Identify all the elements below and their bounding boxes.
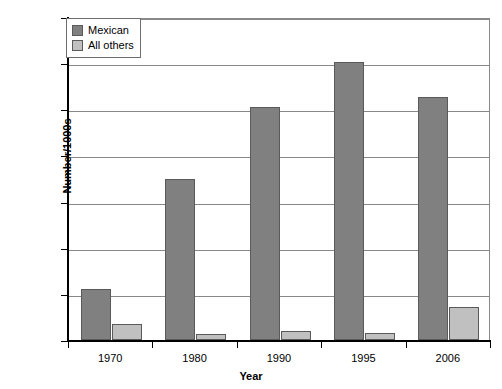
y-axis-tick [61,156,68,157]
bar-mexican-1995 [334,62,364,340]
bar-mexican-1970 [81,289,111,340]
x-axis-tick-label: 1990 [237,352,321,364]
bar-mexican-1990 [250,107,280,340]
legend-label-all-others: All others [88,40,134,51]
y-axis-tick [61,249,68,250]
x-axis-tick-label: 1970 [68,352,152,364]
legend-swatch-icon-mexican [72,25,83,36]
y-axis-tick [61,341,68,342]
y-axis-tick [61,64,68,65]
x-axis-tick [406,341,407,348]
x-axis-tick [490,341,491,348]
chart-legend: Mexican All others [66,18,141,58]
y-axis-tick [61,295,68,296]
x-axis-line [67,340,491,342]
legend-item-mexican: Mexican [72,23,134,38]
bar-mexican-1980 [165,179,195,341]
x-axis-tick-label: 1995 [321,352,405,364]
bar-mexican-2006 [418,97,448,340]
bar-all-others-1995 [365,333,395,340]
x-axis-title: Year [0,370,502,382]
legend-label-mexican: Mexican [88,25,129,36]
x-axis-tick [152,341,153,348]
x-axis-tick [321,341,322,348]
y-axis-tick [61,110,68,111]
x-axis-tick-label: 1980 [152,352,236,364]
x-axis-tick [68,341,69,348]
x-axis-tick-label: 2006 [406,352,490,364]
legend-item-all-others: All others [72,38,134,53]
bar-chart: Number/1000s Year Mexican All others 020… [0,0,502,389]
bar-all-others-2006 [449,307,479,340]
plot-area [68,18,490,341]
legend-swatch-icon-all-others [72,40,83,51]
x-axis-tick [237,341,238,348]
y-axis-tick [61,203,68,204]
gridline [69,65,489,66]
bar-all-others-1970 [112,324,142,340]
bar-all-others-1990 [281,331,311,340]
